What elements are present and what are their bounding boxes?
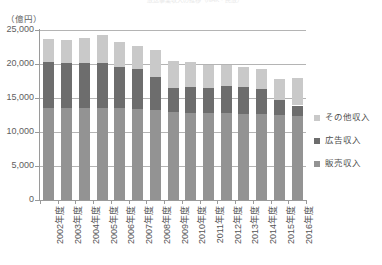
x-tick-label: 2012年度 <box>231 206 244 244</box>
bar-segment-other <box>150 50 161 77</box>
bar <box>79 30 90 200</box>
x-tick-mark <box>271 200 272 204</box>
x-tick-label: 2011年度 <box>213 206 226 243</box>
legend-label-other: その他収入 <box>325 113 370 122</box>
x-tick-label: 2008年度 <box>160 206 173 244</box>
x-tick-label: 2005年度 <box>107 206 120 244</box>
y-tick-mark <box>35 200 39 201</box>
chart-legend: その他収入広告収入販売収入 <box>314 112 370 181</box>
bar-segment-ads <box>79 63 90 109</box>
bar-segment-other <box>274 79 285 100</box>
bar-segment-other <box>114 42 125 67</box>
bar <box>221 30 232 200</box>
bar-segment-ads <box>150 77 161 110</box>
x-tick-mark <box>235 200 236 204</box>
y-tick-mark <box>35 64 39 65</box>
bar <box>114 30 125 200</box>
bar-segment-other <box>221 65 232 86</box>
bar-segment-other <box>292 78 303 105</box>
bar-segment-sales <box>43 108 54 200</box>
bar <box>292 30 303 200</box>
bar-segment-ads <box>221 86 232 113</box>
x-tick-label: 2010年度 <box>195 206 208 244</box>
bar-segment-sales <box>238 114 249 200</box>
y-tick-label: 5,000 <box>0 160 34 170</box>
chart-title: 放送事業収入の推移（NHK・民放） <box>90 0 300 4</box>
legend-item-sales[interactable]: 販売収入 <box>314 158 370 169</box>
bar-segment-ads <box>185 87 196 113</box>
y-tick-label: 15,000 <box>0 92 34 102</box>
x-tick-mark <box>306 200 307 204</box>
bar-segment-sales <box>256 114 267 200</box>
y-axis-unit-label: （億円） <box>6 12 42 24</box>
x-tick-label: 2014年度 <box>266 206 279 244</box>
x-tick-label: 2013年度 <box>248 206 261 244</box>
x-tick-mark <box>111 200 112 204</box>
y-tick-mark <box>35 98 39 99</box>
bar-segment-sales <box>168 112 179 200</box>
bar <box>274 30 285 200</box>
bar <box>43 30 54 200</box>
bar-segment-ads <box>43 62 54 108</box>
bar-segment-sales <box>150 110 161 200</box>
y-tick-label: 10,000 <box>0 126 34 136</box>
y-tick-label: 0 <box>0 194 34 204</box>
bar-segment-other <box>168 61 179 88</box>
legend-swatch-other <box>314 115 320 121</box>
bar-segment-ads <box>256 89 267 114</box>
bar <box>185 30 196 200</box>
bar-segment-sales <box>274 115 285 200</box>
y-tick-mark <box>35 166 39 167</box>
x-tick-mark <box>182 200 183 204</box>
bar-segment-sales <box>221 113 232 200</box>
x-tick-label: 2002年度 <box>53 206 66 244</box>
y-tick-mark <box>35 30 39 31</box>
x-axis-line <box>39 200 307 201</box>
bar <box>61 30 72 200</box>
bar-segment-other <box>203 65 214 88</box>
bar-segment-sales <box>132 109 143 200</box>
x-tick-mark <box>129 200 130 204</box>
bar-segment-other <box>97 35 108 63</box>
legend-item-other[interactable]: その他収入 <box>314 112 370 123</box>
bar <box>168 30 179 200</box>
bar-segment-sales <box>114 108 125 200</box>
x-tick-mark <box>40 200 41 204</box>
y-tick-label: 20,000 <box>0 58 34 68</box>
legend-swatch-ads <box>314 138 320 144</box>
x-tick-label: 2004年度 <box>89 206 102 244</box>
legend-swatch-sales <box>314 161 320 167</box>
bar-segment-ads <box>114 67 125 108</box>
bar-segment-ads <box>238 87 249 114</box>
legend-item-ads[interactable]: 広告収入 <box>314 135 370 146</box>
bar <box>132 30 143 200</box>
bar-segment-sales <box>61 108 72 200</box>
bar-segment-ads <box>132 69 143 109</box>
bar <box>238 30 249 200</box>
x-tick-label: 2007年度 <box>142 206 155 244</box>
bar <box>150 30 161 200</box>
bar-segment-other <box>132 46 143 69</box>
bar-segment-sales <box>185 113 196 200</box>
bar <box>97 30 108 200</box>
bar-segment-sales <box>97 108 108 200</box>
bar-segment-ads <box>97 63 108 108</box>
bar-segment-other <box>79 38 90 62</box>
bar-segment-ads <box>61 63 72 109</box>
x-tick-mark <box>164 200 165 204</box>
bar-segment-ads <box>168 88 179 112</box>
bar-segment-other <box>256 69 267 89</box>
x-tick-mark <box>58 200 59 204</box>
x-tick-label: 2003年度 <box>71 206 84 244</box>
bar-segment-other <box>43 39 54 62</box>
x-tick-mark <box>288 200 289 204</box>
y-tick-mark <box>35 132 39 133</box>
bar-segment-ads <box>203 88 214 113</box>
plot-area <box>40 30 306 200</box>
x-tick-label: 2015年度 <box>284 206 297 244</box>
x-tick-mark <box>217 200 218 204</box>
bar-segment-sales <box>292 116 303 200</box>
bar-segment-sales <box>79 108 90 200</box>
y-tick-label: 25,000 <box>0 24 34 34</box>
x-tick-mark <box>93 200 94 204</box>
